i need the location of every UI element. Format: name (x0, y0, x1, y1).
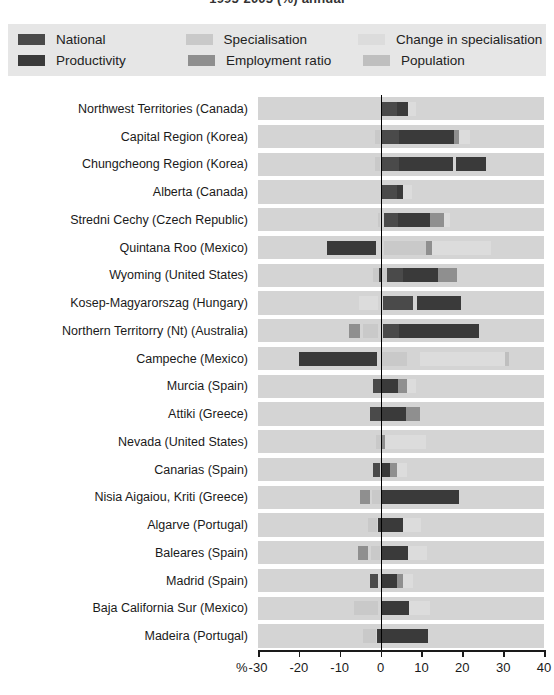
bar-segment-employment_ratio[interactable] (360, 490, 370, 504)
legend-item-specialisation[interactable]: Specialisation (186, 29, 358, 50)
category-label: Murcia (Spain) (167, 378, 248, 394)
legend-item-employment_ratio[interactable]: Employment ratio (188, 50, 363, 71)
bar-segment-change_in_specialisation[interactable] (420, 352, 505, 366)
bar-segment-specialisation[interactable] (363, 629, 377, 643)
bar-segment-productivity[interactable] (382, 463, 390, 477)
bar-segment-national[interactable] (384, 213, 398, 227)
bar-segment-national[interactable] (383, 296, 414, 310)
bar-segment-national[interactable] (373, 463, 380, 477)
axis-tick (503, 650, 505, 657)
bar-segment-national[interactable] (381, 102, 397, 116)
bar-segment-productivity[interactable] (403, 268, 437, 282)
bar-segment-productivity[interactable] (299, 352, 377, 366)
legend-label: Productivity (56, 53, 126, 68)
bar-segment-employment_ratio[interactable] (430, 213, 444, 227)
bar-segment-employment_ratio[interactable] (358, 546, 369, 560)
bar-segment-employment_ratio[interactable] (406, 407, 420, 421)
category-label: Nevada (United States) (118, 434, 248, 450)
bar-segment-productivity[interactable] (381, 546, 408, 560)
category-label: Baja California Sur (Mexico) (92, 600, 248, 616)
legend-label: Population (401, 53, 465, 68)
bar-segment-change_in_specialisation[interactable] (432, 241, 491, 255)
bar-segment-national[interactable] (381, 185, 397, 199)
chart-title: 1995-2005 (%) annual (0, 0, 554, 7)
bar-segment-change_in_specialisation[interactable] (385, 435, 425, 449)
axis-tick-label: -30 (238, 660, 278, 675)
legend-item-productivity[interactable]: Productivity (18, 50, 188, 71)
bar-segment-productivity[interactable] (456, 157, 486, 171)
bar-segment-productivity[interactable] (399, 324, 479, 338)
bar-segment-productivity[interactable] (399, 157, 453, 171)
bar-segment-productivity[interactable] (420, 490, 459, 504)
bar-segment-national[interactable] (383, 324, 399, 338)
axis-tick (462, 650, 464, 657)
bar-segment-population[interactable] (505, 352, 509, 366)
bar-segment-change_in_specialisation[interactable] (409, 601, 430, 615)
bar-segment-national[interactable] (370, 574, 378, 588)
legend: NationalSpecialisationChange in speciali… (8, 24, 546, 76)
category-label: Madrid (Spain) (166, 573, 248, 589)
bar-segment-productivity[interactable] (381, 601, 409, 615)
bar-segment-specialisation[interactable] (375, 157, 379, 171)
axis-line (258, 650, 544, 652)
bar-segment-specialisation[interactable] (384, 241, 426, 255)
category-axis-labels: Northwest Territories (Canada)Capital Re… (0, 84, 253, 650)
bar-segment-productivity[interactable] (399, 130, 454, 144)
bar-segment-employment_ratio[interactable] (398, 379, 407, 393)
legend-item-population[interactable]: Population (363, 50, 538, 71)
bar-segment-change_in_specialisation[interactable] (459, 130, 470, 144)
value-axis (258, 650, 544, 660)
bar-segment-change_in_specialisation[interactable] (359, 296, 378, 310)
bar-segment-national[interactable] (370, 407, 381, 421)
bar-segment-productivity[interactable] (397, 102, 408, 116)
bar-segment-national[interactable] (382, 157, 399, 171)
bar-segment-productivity[interactable] (398, 213, 430, 227)
plot-area (258, 95, 544, 650)
axis-tick-label: 30 (483, 660, 523, 675)
bar-segment-productivity[interactable] (381, 379, 398, 393)
bar-segment-change_in_specialisation[interactable] (403, 574, 413, 588)
legend-swatch-icon (18, 55, 45, 66)
category-label: Algarve (Portugal) (147, 517, 248, 533)
bar-segment-productivity[interactable] (381, 490, 419, 504)
legend-label: National (56, 32, 106, 47)
legend-item-national[interactable]: National (18, 29, 186, 50)
axis-tick-label: 40 (524, 660, 554, 675)
bar-segment-change_in_specialisation[interactable] (408, 102, 416, 116)
bar-segment-specialisation[interactable] (375, 130, 379, 144)
category-label: Canarias (Spain) (154, 462, 248, 478)
legend-swatch-icon (186, 34, 213, 45)
bar-segment-change_in_specialisation[interactable] (397, 463, 407, 477)
category-label: Capital Region (Korea) (121, 129, 248, 145)
bar-segment-change_in_specialisation[interactable] (408, 546, 427, 560)
bar-segment-specialisation[interactable] (382, 352, 407, 366)
category-label: Quintana Roo (Mexico) (119, 240, 248, 256)
bar-segment-employment_ratio[interactable] (438, 268, 457, 282)
bar-segment-productivity[interactable] (381, 574, 397, 588)
category-label: Kosep-Magyarorszag (Hungary) (70, 295, 248, 311)
bar-segment-national[interactable] (382, 130, 399, 144)
bar-segment-productivity[interactable] (395, 629, 428, 643)
bar-segment-productivity[interactable] (381, 407, 406, 421)
bar-segment-change_in_specialisation[interactable] (403, 518, 421, 532)
legend-item-change_in_specialisation[interactable]: Change in specialisation (358, 29, 538, 50)
bar-segment-national[interactable] (387, 268, 403, 282)
bar-segment-productivity[interactable] (327, 241, 376, 255)
category-label: Nisia Aigaiou, Kriti (Greece) (94, 489, 248, 505)
axis-tick (421, 650, 423, 657)
axis-tick-label: -10 (320, 660, 360, 675)
bar-segment-specialisation[interactable] (363, 324, 379, 338)
bar-segment-national[interactable] (373, 379, 380, 393)
bar-segment-employment_ratio[interactable] (349, 324, 360, 338)
legend-label: Specialisation (224, 32, 307, 47)
bar-segment-specialisation[interactable] (368, 518, 377, 532)
bar-segment-change_in_specialisation[interactable] (444, 213, 450, 227)
bar-segment-productivity[interactable] (417, 296, 460, 310)
legend-swatch-icon (363, 55, 390, 66)
bar-segment-specialisation[interactable] (354, 601, 379, 615)
chart-area: Northwest Territories (Canada)Capital Re… (0, 84, 554, 695)
category-label: Northwest Territories (Canada) (78, 101, 248, 117)
bar-segment-specialisation[interactable] (371, 546, 380, 560)
bar-segment-change_in_specialisation[interactable] (407, 379, 416, 393)
bar-segment-change_in_specialisation[interactable] (403, 185, 413, 199)
